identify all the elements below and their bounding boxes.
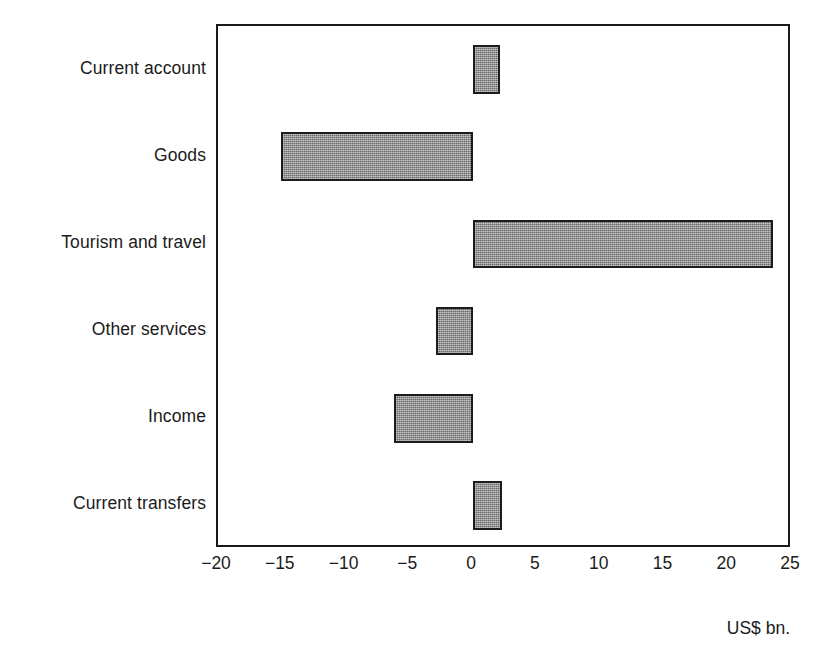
category-label: Current transfers [0,493,206,514]
bar [281,132,474,181]
category-label: Goods [0,144,206,165]
bar [473,481,502,530]
x-tick-label: −15 [265,553,295,574]
plot-frame [216,24,790,547]
x-tick-label: 15 [653,553,672,574]
x-axis: −20−15−10−50510152025 [216,553,790,583]
x-tick-label: 10 [589,553,608,574]
bar-chart: Current accountGoodsTourism and travelOt… [0,0,827,664]
bar [394,394,473,443]
bar [436,307,473,356]
plot-area [218,26,788,545]
x-tick-label: 20 [716,553,735,574]
bar [473,45,500,94]
category-label: Income [0,406,206,427]
category-label: Tourism and travel [0,231,206,252]
x-tick-label: 0 [466,553,476,574]
bar [473,220,773,269]
x-tick-label: 5 [530,553,540,574]
category-label: Other services [0,319,206,340]
x-tick-label: 25 [780,553,799,574]
x-tick-label: −5 [397,553,417,574]
axis-unit-caption: US$ bn. [0,618,790,639]
x-tick-label: −20 [201,553,231,574]
category-label: Current account [0,57,206,78]
x-tick-label: −10 [329,553,359,574]
category-axis: Current accountGoodsTourism and travelOt… [0,24,206,547]
